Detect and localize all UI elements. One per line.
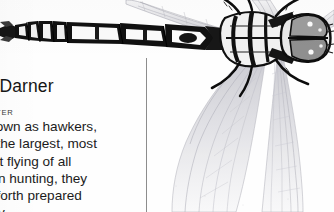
body-line: o known as hawkers, — [0, 118, 140, 135]
scanned-page: ly, Darner WIDE SH WATER o known as hawk… — [0, 0, 334, 212]
habitat-label: SH WATER — [0, 108, 14, 117]
column-divider — [146, 58, 147, 212]
compound-eye-upper — [290, 15, 327, 37]
hindwing-left — [172, 44, 267, 212]
article-body: o known as hawkers, e of the largest, mo… — [0, 118, 140, 212]
body-line: d fast flying of all — [0, 153, 140, 170]
compound-eye-lower — [290, 39, 327, 61]
page-title: ly, Darner — [0, 76, 54, 97]
body-line: When hunting, they — [0, 170, 140, 187]
article-text-column: ly, Darner WIDE SH WATER o known as hawk… — [0, 60, 140, 212]
body-line: and forth prepared — [0, 187, 140, 204]
hindwing-right — [262, 46, 303, 212]
body-line: r prey. — [0, 204, 140, 212]
body-line: e of the largest, most — [0, 135, 140, 152]
head — [281, 14, 334, 62]
